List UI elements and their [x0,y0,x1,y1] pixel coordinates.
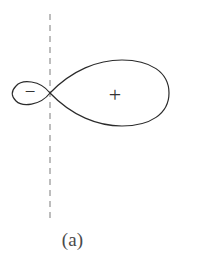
radiation-pattern-svg: − + [0,0,205,264]
minus-sign-label: − [25,81,36,102]
plus-sign-label: + [109,82,121,107]
figure-container: − + (a) [0,0,205,264]
figure-caption: (a) [0,229,145,251]
